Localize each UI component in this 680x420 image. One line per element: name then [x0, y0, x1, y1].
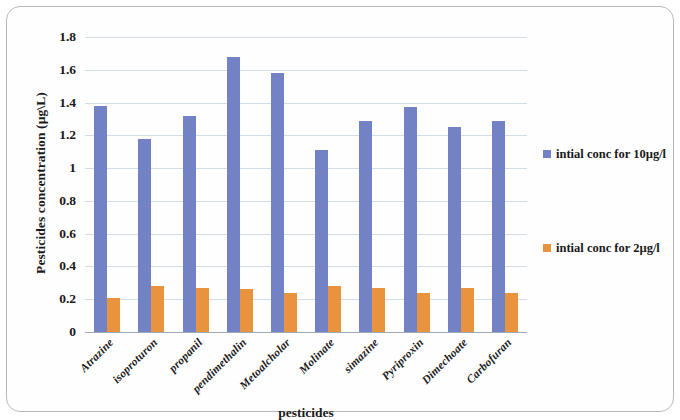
y-axis-tick-label: 0.8	[59, 194, 76, 208]
y-axis-tick-label: 0.6	[59, 227, 76, 241]
y-axis-tick-label: 1.8	[59, 30, 76, 44]
y-axis-tick-label: 0	[69, 325, 76, 339]
bar-group	[218, 37, 262, 332]
y-axis-tick-label: 1	[69, 161, 76, 175]
legend-item-series-2[interactable]: intial conc for 2µg/l	[543, 241, 680, 255]
bar-series-2[interactable]	[417, 293, 430, 332]
bar-series-1[interactable]	[227, 57, 240, 332]
legend-label-series-2: intial conc for 2µg/l	[556, 241, 660, 256]
bar-series-1[interactable]	[492, 121, 505, 332]
bar-series-2[interactable]	[284, 293, 297, 332]
bar-group	[483, 37, 527, 332]
chart-frame: Pesticides concentration (µg\L) 1.81.61.…	[6, 6, 674, 412]
bar-series-2[interactable]	[107, 298, 120, 332]
bar-series-1[interactable]	[404, 107, 417, 332]
bar-group	[262, 37, 306, 332]
gridline	[85, 332, 527, 333]
bar-group	[394, 37, 438, 332]
bar-series-2[interactable]	[372, 288, 385, 332]
bar-series-1[interactable]	[183, 116, 196, 332]
legend-swatch-icon-series-1	[543, 150, 551, 158]
bar-group	[85, 37, 129, 332]
legend-spacer	[543, 161, 680, 241]
x-tick-cell: Carbofuran	[483, 334, 527, 396]
legend-item-series-1[interactable]: intial conc for 10µg/l	[543, 147, 680, 161]
y-axis-tick-label: 1.2	[59, 129, 76, 143]
plot-area: 1.81.61.41.210.80.60.40.20	[85, 37, 527, 332]
bar-series-1[interactable]	[138, 139, 151, 332]
bar-series-2[interactable]	[461, 288, 474, 332]
bar-group	[306, 37, 350, 332]
y-axis-tick-label: 0.2	[59, 292, 76, 306]
bar-series-2[interactable]	[240, 289, 253, 332]
bar-series-1[interactable]	[94, 106, 107, 332]
bar-series-2[interactable]	[328, 286, 341, 332]
bar-series-2[interactable]	[196, 288, 209, 332]
bar-group	[173, 37, 217, 332]
bar-series-2[interactable]	[505, 293, 518, 332]
legend-swatch-icon-series-2	[543, 244, 551, 252]
bar-group	[439, 37, 483, 332]
x-axis-tick-label: Atrazine	[77, 336, 115, 374]
bar-series-2[interactable]	[151, 286, 164, 332]
bar-series-1[interactable]	[448, 127, 461, 332]
y-axis-title: Pesticides concentration (µg\L)	[33, 53, 49, 313]
bar-series-1[interactable]	[315, 150, 328, 332]
x-axis-tick-labels: Atrazineisoproturonpropanilpendimethalin…	[85, 334, 527, 396]
y-axis-tick-label: 1.4	[59, 96, 76, 110]
bar-group	[129, 37, 173, 332]
chart-legend: intial conc for 10µg/l intial conc for 2…	[543, 147, 680, 255]
bar-series-1[interactable]	[359, 121, 372, 332]
bar-series-1[interactable]	[271, 73, 284, 332]
y-axis-tick-label: 0.4	[59, 260, 76, 274]
bar-group	[350, 37, 394, 332]
y-axis-tick-label: 1.6	[59, 63, 76, 77]
legend-label-series-1: intial conc for 10µg/l	[556, 147, 666, 162]
x-axis-title: pesticides	[85, 405, 527, 420]
bars-layer	[85, 37, 527, 332]
